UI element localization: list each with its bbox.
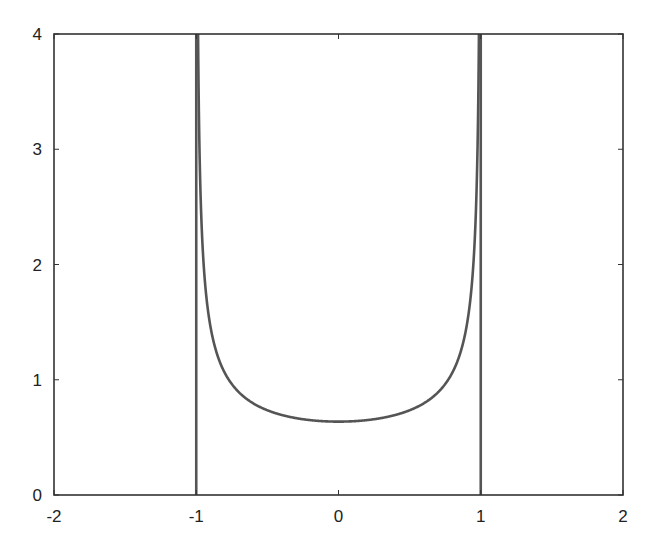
x-tick-label: 0 [334, 507, 343, 526]
x-tick-label: -1 [189, 507, 204, 526]
x-tick-label: -2 [46, 507, 61, 526]
y-tick-label: 1 [33, 371, 42, 390]
y-tick-label: 0 [33, 486, 42, 505]
figure-background [0, 0, 662, 553]
x-tick-label: 1 [476, 507, 485, 526]
y-tick-label: 4 [33, 25, 42, 44]
y-tick-label: 2 [33, 256, 42, 275]
y-tick-label: 3 [33, 140, 42, 159]
x-tick-label: 2 [618, 507, 627, 526]
chart-figure: -2-1012 01234 [0, 0, 662, 553]
